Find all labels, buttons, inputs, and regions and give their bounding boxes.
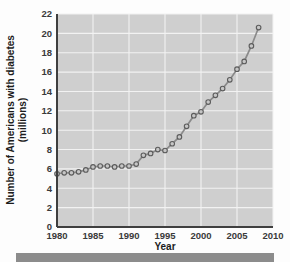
data-point-marker: [256, 25, 261, 30]
y-tick-label: 12: [41, 105, 52, 116]
data-point-marker: [127, 164, 132, 169]
data-point-marker: [170, 141, 175, 146]
data-point-marker: [148, 151, 153, 156]
footer-bar: [16, 253, 274, 262]
y-tick-label: 18: [41, 47, 52, 58]
data-point-marker: [184, 124, 189, 129]
data-point-marker: [228, 78, 233, 83]
y-tick-label: 6: [47, 163, 52, 174]
x-tick-label: 2005: [226, 230, 248, 241]
chart-figure: 0246810121416182022 19801985199019952000…: [0, 0, 290, 262]
x-tick-label: 1995: [154, 230, 176, 241]
data-point-marker: [84, 168, 89, 173]
y-tick-label: 22: [41, 8, 52, 19]
y-axis-tick-labels: 0246810121416182022: [41, 8, 52, 232]
diabetes-line-chart: 0246810121416182022 19801985199019952000…: [0, 0, 290, 262]
y-tick-label: 4: [47, 183, 53, 194]
data-point-marker: [62, 170, 67, 175]
data-point-marker: [192, 113, 197, 118]
data-point-marker: [213, 93, 218, 98]
data-point-marker: [163, 148, 168, 153]
x-tick-label: 2000: [190, 230, 211, 241]
data-point-marker: [242, 59, 247, 64]
y-tick-label: 10: [41, 125, 52, 136]
data-point-marker: [76, 170, 81, 175]
y-axis-title-line1: Number of Americans with diabetes: [5, 35, 16, 205]
data-point-marker: [98, 164, 103, 169]
y-axis-title-line2: (millions): [17, 98, 28, 142]
data-point-marker: [134, 162, 139, 167]
data-point-marker: [120, 164, 125, 169]
x-axis-title: Year: [154, 241, 175, 252]
data-point-marker: [105, 164, 110, 169]
data-point-marker: [206, 100, 211, 105]
x-tick-label: 1990: [118, 230, 139, 241]
data-point-marker: [249, 44, 254, 49]
y-tick-label: 14: [41, 86, 52, 97]
x-axis-tick-labels: 1980198519901995200020052010: [46, 230, 283, 241]
data-point-marker: [141, 153, 146, 158]
data-point-marker: [199, 109, 204, 114]
data-point-marker: [156, 147, 161, 152]
data-point-marker: [69, 170, 74, 175]
y-tick-label: 16: [41, 66, 52, 77]
x-tick-label: 1985: [82, 230, 104, 241]
data-point-marker: [235, 67, 240, 72]
data-point-marker: [91, 165, 96, 170]
y-tick-label: 8: [47, 144, 52, 155]
data-point-marker: [112, 165, 117, 170]
y-tick-label: 2: [47, 202, 52, 213]
x-tick-label: 2010: [262, 230, 283, 241]
x-tick-label: 1980: [46, 230, 67, 241]
y-tick-label: 20: [41, 28, 52, 39]
data-point-marker: [220, 86, 225, 91]
data-point-marker: [177, 135, 182, 140]
